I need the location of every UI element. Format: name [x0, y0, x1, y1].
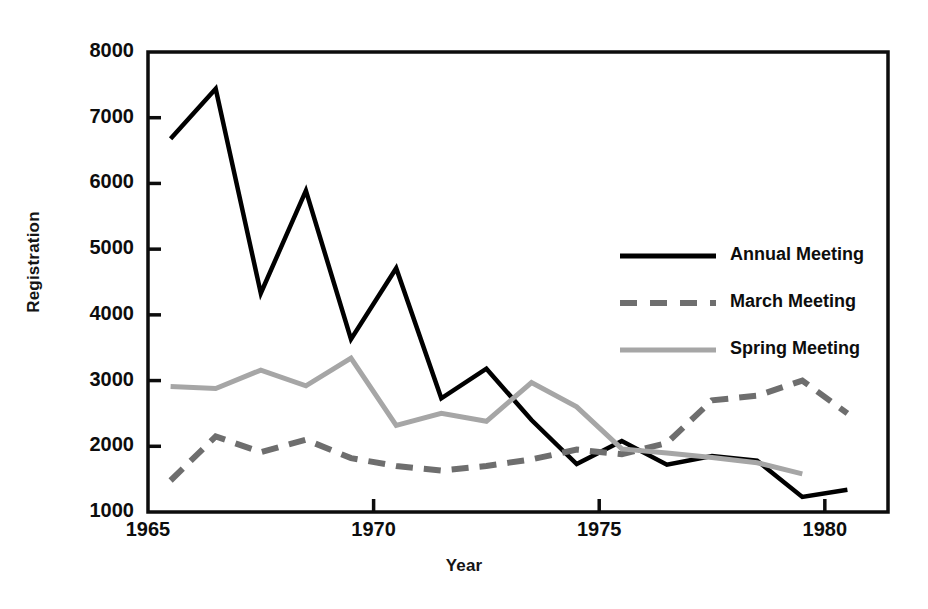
x-axis-tick-label: 1970	[319, 518, 429, 541]
y-axis-tick-label: 4000	[44, 302, 134, 325]
legend-label-annual-meeting: Annual Meeting	[730, 244, 864, 265]
y-axis-tick-label: 3000	[44, 368, 134, 391]
y-axis-tick-label: 5000	[44, 236, 134, 259]
y-axis-tick-label: 2000	[44, 433, 134, 456]
y-axis-tick-label: 7000	[44, 105, 134, 128]
x-axis-tick-label: 1980	[770, 518, 880, 541]
x-axis-tick-label: 1965	[93, 518, 203, 541]
y-axis-tick-label: 6000	[44, 170, 134, 193]
registration-line-chart: Registration Year 1000200030004000500060…	[0, 0, 928, 609]
y-axis-tick-label: 8000	[44, 39, 134, 62]
legend-label-march-meeting: March Meeting	[730, 291, 856, 312]
x-axis-tick-label: 1975	[544, 518, 654, 541]
series-line-spring-meeting	[171, 358, 803, 474]
legend-label-spring-meeting: Spring Meeting	[730, 338, 860, 359]
